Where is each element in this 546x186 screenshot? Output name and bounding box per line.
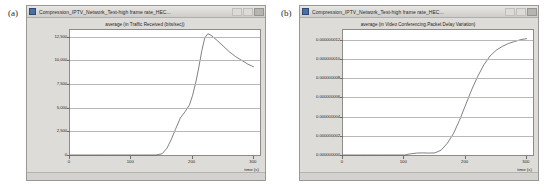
minimize-button[interactable] [505, 8, 515, 16]
x-tick-label: 200 [188, 159, 195, 164]
gridline [70, 84, 260, 85]
panel-a-curve [70, 30, 260, 155]
y-tick-mark [67, 60, 70, 61]
panel-b: (b) Compression_IPTV_Network_Test-high f… [273, 0, 546, 186]
y-tick-mark [67, 108, 70, 109]
figure-container: (a) Compression_IPTV_Network_Test-high f… [0, 0, 546, 186]
y-tick-label: 0.000000008 [316, 75, 340, 80]
gridline [343, 59, 533, 60]
y-tick-mark [67, 84, 70, 85]
x-tick-label: 100 [400, 159, 407, 164]
maximize-button[interactable] [516, 8, 526, 16]
y-tick-label: 0.000000004 [316, 113, 340, 118]
y-tick-mark [340, 78, 343, 79]
panel-a-x-axis-title: time (s) [244, 167, 259, 172]
panel-b-chart-area: average (in Video Conferencing.Packet De… [300, 18, 538, 172]
gridline [343, 97, 533, 98]
panel-b-statusbar [300, 172, 538, 180]
panel-a-y-axis: 02,5005,0007,50010,00012,500 [29, 29, 69, 156]
panel-b-window-title: Compression_IPTV_Network_Test-high frame… [312, 9, 505, 15]
gridline [343, 78, 533, 79]
x-tick-label: 300 [249, 159, 256, 164]
y-tick-label: 7,500 [57, 80, 67, 85]
panel-b-titlebar[interactable]: Compression_IPTV_Network_Test-high frame… [300, 6, 538, 18]
y-tick-mark [67, 37, 70, 38]
y-tick-label: 12,500 [54, 33, 67, 38]
y-tick-label: 5,000 [57, 104, 67, 109]
panel-a-plot-wrap: 02,5005,0007,50010,00012,500 [29, 29, 261, 156]
panel-a-plot-box[interactable] [69, 29, 261, 156]
panel-b-window-buttons [505, 8, 537, 16]
panel-b-window[interactable]: Compression_IPTV_Network_Test-high frame… [299, 5, 539, 181]
y-tick-label: 10,000 [54, 57, 67, 62]
gridline [70, 37, 260, 38]
y-tick-mark [340, 117, 343, 118]
panel-b-x-axis: time (s) 0100200300 [302, 156, 534, 170]
gridline [343, 117, 533, 118]
panel-a-letter: (a) [8, 8, 18, 18]
panel-a-window[interactable]: Compression_IPTV_Network_Test-high frame… [26, 5, 266, 181]
gridline [343, 136, 533, 137]
panel-b-x-axis-inner: time (s) 0100200300 [342, 156, 534, 170]
close-button[interactable] [527, 8, 537, 16]
panel-b-letter: (b) [281, 8, 292, 18]
x-tick-label: 300 [522, 159, 529, 164]
panel-b-chart-title: average (in Video Conferencing.Packet De… [302, 20, 534, 29]
gridline [70, 108, 260, 109]
window-app-icon [29, 8, 36, 15]
y-tick-label: 0.000000010 [316, 55, 340, 60]
x-tick-label: 100 [127, 159, 134, 164]
y-tick-mark [340, 40, 343, 41]
panel-b-plot-box[interactable] [342, 29, 534, 156]
panel-a-chart-area: average (in Traffic Received (bits/sec))… [27, 18, 265, 172]
y-tick-mark [340, 97, 343, 98]
panel-b-plot-wrap: 0.0000000000.0000000020.0000000040.00000… [302, 29, 534, 156]
y-tick-label: 2,500 [57, 128, 67, 133]
panel-a-titlebar[interactable]: Compression_IPTV_Network_Test-high frame… [27, 6, 265, 18]
minimize-button[interactable] [232, 8, 242, 16]
panel-a-chart-title: average (in Traffic Received (bits/sec)) [29, 20, 261, 29]
panel-a: (a) Compression_IPTV_Network_Test-high f… [0, 0, 273, 186]
y-tick-label: 0.000000002 [316, 132, 340, 137]
window-app-icon [302, 8, 309, 15]
gridline [343, 40, 533, 41]
x-tick-label: 0 [341, 159, 343, 164]
y-tick-mark [340, 136, 343, 137]
y-tick-label: 0.000000012 [316, 36, 340, 41]
maximize-button[interactable] [243, 8, 253, 16]
y-tick-mark [340, 59, 343, 60]
gridline [70, 131, 260, 132]
panel-a-x-axis-inner: time (s) 0100200300 [69, 156, 261, 170]
panel-b-y-axis: 0.0000000000.0000000020.0000000040.00000… [302, 29, 342, 156]
panel-a-window-buttons [232, 8, 264, 16]
x-tick-label: 0 [68, 159, 70, 164]
panel-b-x-axis-title: time (s) [517, 167, 532, 172]
panel-a-x-axis-spacer [29, 156, 69, 170]
y-tick-mark [67, 131, 70, 132]
series-line [70, 34, 254, 155]
panel-a-statusbar [27, 172, 265, 180]
panel-a-x-axis: time (s) 0100200300 [29, 156, 261, 170]
y-tick-label: 0.000000006 [316, 94, 340, 99]
panel-b-x-axis-spacer [302, 156, 342, 170]
x-tick-label: 200 [461, 159, 468, 164]
close-button[interactable] [254, 8, 264, 16]
gridline [70, 60, 260, 61]
panel-a-window-title: Compression_IPTV_Network_Test-high frame… [39, 9, 232, 15]
